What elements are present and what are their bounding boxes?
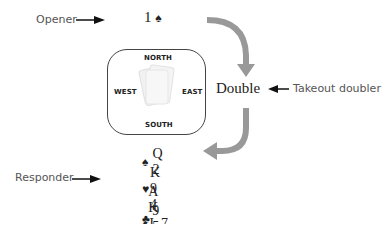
west-label: WEST [114, 88, 137, 96]
east-label: EAST [182, 88, 202, 96]
south-label: SOUTH [145, 121, 173, 129]
takeout-arrow-icon [268, 84, 290, 94]
compass-table: NORTH WEST EAST SOUTH [107, 49, 206, 135]
cards-icon [138, 62, 178, 114]
hand-row-clubs: ♣ 9 5 [142, 203, 167, 224]
club-cards: 9 5 [152, 203, 167, 224]
responder-label: Responder [15, 171, 74, 184]
responder-arrow-icon [72, 174, 102, 184]
north-label: NORTH [144, 54, 172, 62]
double-bid: Double [216, 80, 260, 97]
club-icon: ♣ [142, 212, 152, 225]
takeout-doubler-label: Takeout doubler [293, 82, 381, 95]
